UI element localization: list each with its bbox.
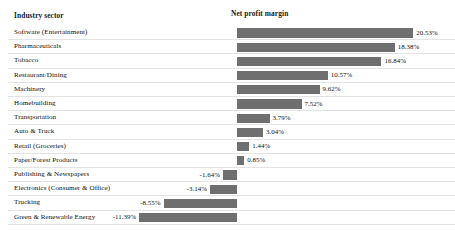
industry-sector-label: Machinery (14, 85, 45, 93)
industry-sector-label: Pharmaceuticals (14, 42, 61, 50)
bar-value-label: 9.62% (323, 85, 341, 92)
table-row: Publishing & Newspapers-1.64% (0, 168, 455, 182)
bar-value-label: 10.57% (331, 71, 353, 78)
bar (223, 170, 237, 179)
industry-sector-label: Retail (Groceries) (14, 142, 66, 150)
bar (237, 28, 413, 37)
bar (237, 128, 263, 137)
bar (237, 99, 302, 108)
bar (237, 114, 270, 123)
bar-value-label: 20.53% (416, 29, 438, 36)
bar (210, 185, 237, 194)
table-row: Transportation3.79% (0, 111, 455, 125)
bar-value-label: 0.85% (247, 156, 265, 163)
bar-value-label: 7.52% (305, 100, 323, 107)
table-row: Restaurant/Dining10.57% (0, 69, 455, 83)
net-profit-margin-chart: Industry sector Net profit margin Softwa… (0, 0, 455, 239)
table-row: Tobacco16.84% (0, 54, 455, 68)
table-row: Homebuilding7.52% (0, 97, 455, 111)
bar (237, 57, 381, 66)
bar-value-label: 3.79% (273, 114, 291, 121)
bar-value-label: -3.14% (187, 185, 207, 192)
bar (237, 85, 320, 94)
industry-sector-label: Paper/Forest Products (14, 156, 78, 164)
table-row: Software (Entertainment)20.53% (0, 26, 455, 40)
table-row: Paper/Forest Products0.85% (0, 154, 455, 168)
industry-sector-label: Restaurant/Dining (14, 71, 67, 79)
column-header-net-profit-margin: Net profit margin (231, 9, 288, 18)
table-row: Pharmaceuticals18.38% (0, 40, 455, 54)
industry-sector-label: Tobacco (14, 56, 38, 64)
bar (237, 156, 244, 165)
bar (237, 71, 328, 80)
table-row: Green & Renewable Energy-11.39% (0, 211, 455, 225)
industry-sector-label: Transportation (14, 113, 56, 121)
industry-sector-label: Publishing & Newspapers (14, 170, 89, 178)
chart-header: Industry sector Net profit margin (0, 0, 455, 26)
bar-value-label: -1.64% (200, 171, 220, 178)
row-separator (8, 224, 455, 225)
industry-sector-label: Homebuilding (14, 99, 56, 107)
bar-value-label: 3.04% (266, 128, 284, 135)
table-row: Machinery9.62% (0, 83, 455, 97)
bar (164, 199, 237, 208)
bar (139, 213, 237, 222)
industry-sector-label: Green & Renewable Energy (14, 213, 95, 221)
table-row: Retail (Groceries)1.44% (0, 140, 455, 154)
chart-rows: Software (Entertainment)20.53%Pharmaceut… (0, 26, 455, 239)
table-row: Trucking-8.55% (0, 196, 455, 210)
bar-value-label: 1.44% (252, 142, 270, 149)
bar-value-label: -8.55% (140, 199, 160, 206)
industry-sector-label: Trucking (14, 198, 40, 206)
bar (237, 142, 249, 151)
bar-value-label: 18.38% (398, 43, 420, 50)
bar-value-label: 16.84% (384, 57, 406, 64)
table-row: Auto & Truck3.04% (0, 125, 455, 139)
bar-value-label: -11.39% (113, 213, 137, 220)
industry-sector-label: Auto & Truck (14, 127, 54, 135)
industry-sector-label: Software (Entertainment) (14, 28, 88, 36)
column-header-industry-sector: Industry sector (14, 11, 64, 20)
industry-sector-label: Electronics (Consumer & Office) (14, 184, 110, 192)
table-row: Electronics (Consumer & Office)-3.14% (0, 182, 455, 196)
bar (237, 43, 395, 52)
